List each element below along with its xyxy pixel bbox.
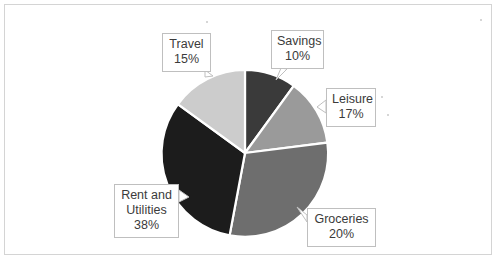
- callout-savings[interactable]: Savings 10%: [271, 30, 324, 69]
- callout-savings-value: 10%: [277, 49, 318, 64]
- pie-chart-figure: Travel 15% Savings 10% Leisure 17% Groce…: [0, 0, 497, 260]
- scan-speck: [381, 96, 383, 98]
- callout-savings-label: Savings: [277, 34, 318, 49]
- callout-rent-and-utilities[interactable]: Rent and Utilities 38%: [114, 184, 179, 238]
- callout-leisure[interactable]: Leisure 17%: [326, 88, 376, 127]
- callout-leisure-value: 17%: [332, 107, 370, 122]
- callout-rent-label-line1: Rent and: [120, 188, 173, 203]
- scan-speck: [206, 21, 208, 23]
- callout-travel-label: Travel: [168, 37, 205, 52]
- callout-rent-label-line2: Utilities: [120, 203, 173, 218]
- pie-chart-graphic: [0, 0, 497, 260]
- callout-groceries-value: 20%: [313, 227, 370, 242]
- callout-rent-value: 38%: [120, 218, 173, 233]
- callout-groceries[interactable]: Groceries 20%: [307, 208, 376, 247]
- scan-speck: [480, 19, 482, 21]
- scan-speck: [387, 114, 389, 116]
- leader-line-leisure: [317, 100, 326, 113]
- callout-travel[interactable]: Travel 15%: [162, 33, 211, 72]
- callout-travel-value: 15%: [168, 52, 205, 67]
- callout-groceries-label: Groceries: [313, 212, 370, 227]
- callout-leisure-label: Leisure: [332, 92, 370, 107]
